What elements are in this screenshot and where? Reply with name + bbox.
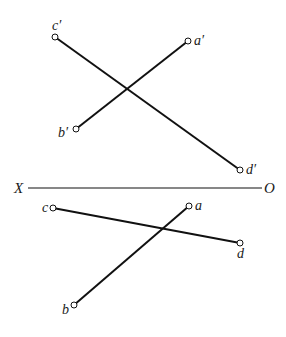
line-c-prime-d-prime	[55, 37, 240, 170]
point-c	[50, 205, 56, 211]
point-c-prime	[52, 34, 58, 40]
label-b-prime: b′	[58, 125, 69, 140]
point-b-prime	[73, 126, 79, 132]
point-a	[186, 203, 192, 209]
label-d-prime: d′	[246, 162, 257, 177]
axis-label-o: O	[264, 180, 275, 196]
projection-diagram: X O c′ a′ b′ d′ c a d b	[0, 0, 286, 337]
point-d-prime	[237, 167, 243, 173]
label-d: d	[237, 246, 245, 261]
label-a: a	[195, 198, 202, 213]
label-c: c	[42, 200, 49, 215]
point-a-prime	[185, 38, 191, 44]
axis-label-x: X	[13, 180, 24, 196]
label-b: b	[62, 302, 69, 317]
line-a-prime-b-prime	[76, 41, 188, 129]
label-c-prime: c′	[52, 18, 62, 33]
label-a-prime: a′	[194, 33, 205, 48]
line-c-d	[53, 208, 240, 243]
point-b	[71, 302, 77, 308]
line-a-b	[74, 206, 189, 305]
